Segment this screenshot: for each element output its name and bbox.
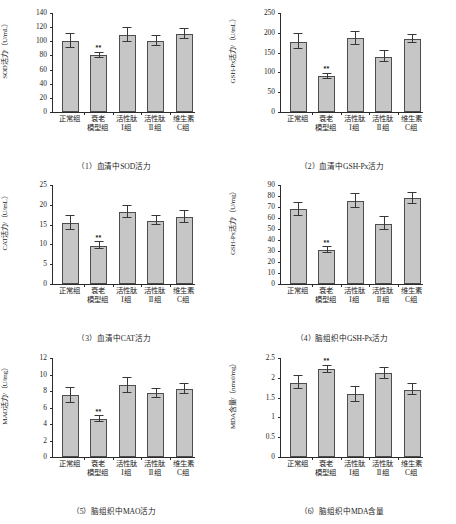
error-bar-cap [351, 31, 360, 32]
panel-caption: （2）血清中GSH-Px活力 [228, 160, 456, 171]
bar [90, 419, 107, 457]
bar [176, 389, 193, 457]
error-bar-cap [180, 222, 189, 223]
x-tick-label: 维生素C组 [394, 114, 428, 132]
y-tick-label: 150 [264, 49, 275, 56]
y-axis-ticks: 0510152025 [6, 185, 50, 284]
error-bar-cap [351, 44, 360, 45]
error-bar-cap [94, 248, 103, 249]
error-bar-cap [180, 393, 189, 394]
y-tick-mark [278, 53, 281, 54]
y-tick-label: 12 [40, 354, 47, 361]
y-tick-mark [50, 424, 53, 425]
bar [147, 221, 164, 284]
x-tick-label-line: 维生素 [394, 459, 428, 468]
error-bar [355, 387, 356, 402]
error-bar-cap [379, 378, 388, 379]
error-bar [298, 376, 299, 389]
error-bar-cap [123, 205, 132, 206]
plot-area: ** [52, 13, 195, 113]
bar [62, 223, 79, 284]
error-bar-cap [94, 57, 103, 58]
x-tick-label-line: C组 [394, 468, 428, 477]
error-bar-cap [408, 383, 417, 384]
error-bar-cap [351, 193, 360, 194]
bar [290, 209, 307, 284]
error-bar [355, 32, 356, 45]
x-tick-label: 维生素C组 [166, 459, 200, 477]
y-tick-mark [50, 41, 53, 42]
error-bar [298, 34, 299, 48]
bar [404, 198, 421, 284]
plot-area: ** [280, 185, 423, 285]
y-tick-label: 60 [40, 66, 47, 73]
error-bar-cap [351, 386, 360, 387]
error-bar-cap [408, 203, 417, 204]
bar [90, 55, 107, 112]
y-tick-label: 15 [40, 221, 47, 228]
y-tick-label: 2.5 [266, 354, 275, 361]
x-tick-label-line: C组 [166, 295, 200, 304]
bar [290, 42, 307, 112]
panel-caption: （1）血清中SOD活力 [0, 160, 228, 171]
y-tick-mark [278, 185, 281, 186]
y-tick-mark [278, 437, 281, 438]
y-tick-mark [278, 13, 281, 14]
y-tick-label: 120 [36, 23, 47, 30]
y-tick-label: 50 [268, 225, 275, 232]
y-tick-mark [278, 207, 281, 208]
error-bar-cap [379, 367, 388, 368]
y-tick-mark [50, 284, 53, 285]
error-bar-cap [408, 34, 417, 35]
x-tick-label-line: C组 [394, 123, 428, 132]
y-tick-label: 0 [43, 453, 47, 460]
y-tick-mark [278, 251, 281, 252]
error-bar-cap [379, 229, 388, 230]
error-bar-cap [294, 48, 303, 49]
error-bar-cap [123, 392, 132, 393]
y-axis-ticks: 024681012 [6, 358, 50, 457]
y-tick-label: 20 [40, 201, 47, 208]
error-bar-cap [151, 35, 160, 36]
bar [347, 38, 364, 112]
error-bar [70, 34, 71, 48]
error-bar-cap [123, 377, 132, 378]
bar [318, 76, 335, 112]
y-tick-mark [278, 196, 281, 197]
error-bar-cap [66, 215, 75, 216]
error-bar-cap [123, 27, 132, 28]
y-tick-label: 90 [268, 181, 275, 188]
y-tick-label: 25 [40, 181, 47, 188]
error-bar-cap [322, 78, 331, 79]
y-tick-label: 10 [40, 241, 47, 248]
error-bar-cap [66, 229, 75, 230]
significance-marker: ** [95, 408, 101, 415]
error-bar-cap [408, 192, 417, 193]
bar [375, 57, 392, 112]
y-tick-mark [278, 72, 281, 73]
significance-marker: ** [95, 44, 101, 51]
y-tick-label: 10 [40, 371, 47, 378]
panel-caption: （3）血清中CAT活力 [0, 332, 228, 343]
y-tick-mark [50, 264, 53, 265]
y-tick-label: 60 [268, 214, 275, 221]
y-tick-mark [278, 33, 281, 34]
y-tick-label: 100 [36, 38, 47, 45]
y-tick-mark [50, 375, 53, 376]
bar [375, 224, 392, 285]
y-tick-label: 1.5 [266, 394, 275, 401]
y-tick-mark [50, 13, 53, 14]
error-bar-cap [151, 388, 160, 389]
y-tick-mark [50, 441, 53, 442]
y-tick-label: 2 [43, 437, 47, 444]
x-tick-label-line: 维生素 [394, 114, 428, 123]
bar [62, 41, 79, 112]
y-tick-mark [50, 408, 53, 409]
x-tick-label-line: C组 [166, 123, 200, 132]
error-bar-cap [66, 47, 75, 48]
y-tick-label: 8 [43, 387, 47, 394]
x-tick-label: 维生素C组 [166, 286, 200, 304]
y-tick-mark [50, 84, 53, 85]
significance-marker: ** [323, 65, 329, 72]
error-bar-cap [294, 33, 303, 34]
